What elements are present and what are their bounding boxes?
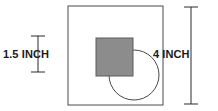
shaded-square <box>96 38 133 76</box>
left-dimension-label: 1.5 INCH <box>3 49 49 60</box>
figure-canvas: 1.5 INCH 4 INCH <box>0 0 218 111</box>
right-dimension-label: 4 INCH <box>153 49 190 60</box>
